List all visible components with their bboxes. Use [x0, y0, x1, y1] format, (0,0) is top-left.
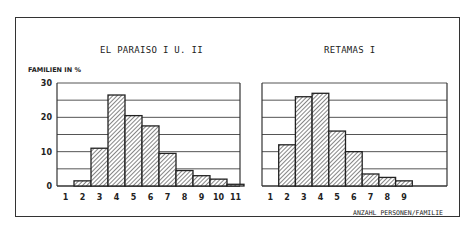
x-tick-label: 7: [368, 193, 374, 202]
x-tick-label: 9: [401, 193, 407, 202]
x-tick-label: 10: [213, 193, 225, 202]
histogram-bar: [329, 131, 346, 186]
x-tick-label: 6: [148, 193, 154, 202]
x-tick-label: 3: [97, 193, 103, 202]
histogram-bar: [312, 93, 329, 186]
x-tick-label: 1: [268, 193, 274, 202]
x-tick-label: 4: [318, 193, 324, 202]
histogram-bar: [379, 177, 396, 186]
histogram-bar: [176, 171, 193, 186]
x-tick-label: 2: [284, 193, 290, 202]
x-tick-label: 8: [384, 193, 390, 202]
y-tick-label: 20: [41, 113, 53, 122]
histogram-bar: [396, 181, 413, 186]
left-histogram: 12345678910110102030: [41, 79, 244, 202]
x-tick-label: 1: [63, 193, 69, 202]
x-tick-label: 9: [199, 193, 205, 202]
histogram-bar: [346, 152, 363, 186]
x-tick-label: 6: [351, 193, 357, 202]
histogram-bar: [74, 181, 91, 186]
histogram-bar: [125, 116, 142, 186]
x-tick-label: 11: [230, 193, 242, 202]
x-tick-label: 5: [131, 193, 137, 202]
x-tick-label: 4: [114, 193, 120, 202]
right-histogram: 123456789: [262, 83, 447, 202]
histogram-bar: [227, 184, 244, 186]
x-tick-label: 2: [80, 193, 86, 202]
x-tick-label: 7: [165, 193, 171, 202]
x-tick-label: 3: [301, 193, 307, 202]
histogram-bar: [108, 95, 125, 186]
y-tick-label: 0: [46, 182, 52, 191]
histogram-charts: 12345678910110102030 123456789: [0, 0, 475, 251]
y-tick-label: 30: [41, 79, 53, 88]
histogram-bar: [279, 145, 296, 186]
histogram-bar: [159, 153, 176, 186]
histogram-bar: [210, 179, 227, 186]
histogram-bar: [142, 126, 159, 186]
histogram-bar: [91, 148, 108, 186]
x-tick-label: 8: [182, 193, 188, 202]
y-tick-label: 10: [41, 148, 53, 157]
histogram-bar: [295, 97, 312, 186]
histogram-bar: [193, 176, 210, 186]
histogram-bar: [362, 174, 379, 186]
x-tick-label: 5: [334, 193, 340, 202]
